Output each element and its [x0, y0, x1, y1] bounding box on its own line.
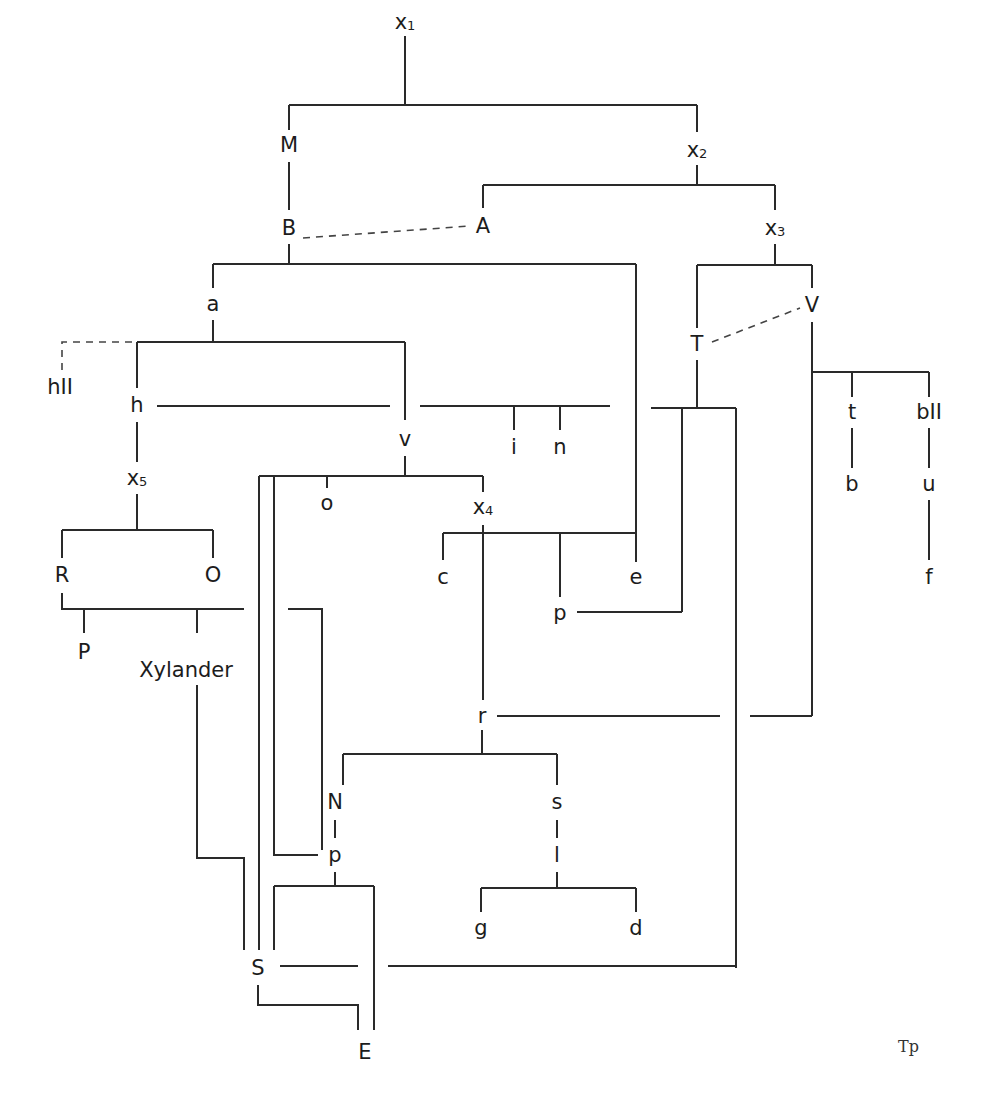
node-s: s: [552, 790, 563, 814]
edge-T-V-contamination: [712, 308, 800, 342]
node-o: o: [321, 491, 334, 515]
node-subscript: 5: [139, 474, 147, 489]
node-c: c: [437, 565, 449, 589]
node-u: u: [922, 472, 935, 496]
node-f: f: [925, 565, 933, 589]
node-x2: x2: [687, 138, 708, 162]
node-subscript: 2: [699, 146, 707, 161]
node-n: n: [553, 435, 566, 459]
signature-mark: Tp: [898, 1037, 919, 1056]
node-A: A: [476, 214, 491, 238]
node-subscript: 4: [485, 503, 493, 518]
node-e: e: [630, 565, 643, 589]
edge-r-children: [343, 730, 557, 785]
edge-V-children: [812, 322, 929, 716]
node-b: b: [845, 472, 858, 496]
node-g: g: [474, 916, 487, 940]
edge-Xylander-S: [197, 685, 244, 950]
node-d: d: [629, 916, 642, 940]
edge-x5-children: [62, 494, 213, 558]
edge-B-A-contamination: [303, 226, 470, 238]
node-x4: x4: [473, 495, 494, 519]
node-t: t: [848, 400, 856, 424]
edge-R-line: [62, 593, 322, 850]
node-E: E: [358, 1040, 371, 1064]
edge-T-children: [651, 360, 736, 968]
node-N: N: [327, 790, 343, 814]
edge-h-line: [157, 406, 610, 430]
node-T: T: [690, 332, 704, 356]
edge-hII-contamination: [62, 342, 132, 370]
node-subscript: 3: [777, 224, 785, 239]
node-i: i: [511, 435, 517, 459]
node-p1: p: [553, 601, 566, 625]
edges: [62, 36, 929, 1030]
node-x5: x5: [127, 466, 148, 490]
edge-v-children: [259, 456, 483, 492]
node-x3: x3: [765, 216, 786, 240]
node-hII: hII: [47, 375, 73, 399]
node-B: B: [282, 216, 296, 240]
node-a: a: [207, 292, 220, 316]
edge-l-children: [481, 872, 636, 912]
node-l: l: [554, 843, 560, 867]
node-R: R: [55, 563, 70, 587]
stemma-diagram: x1Mx2BAx3aVThIIhtbIIvinox4bux5ROcefpPXyl…: [0, 0, 992, 1120]
edge-x1-children: [289, 36, 697, 132]
edge-x2-children: [483, 165, 775, 210]
node-v: v: [399, 427, 411, 451]
node-P: P: [78, 640, 91, 664]
edge-x3-children: [697, 244, 812, 328]
node-M: M: [280, 133, 298, 157]
edge-B-children: [213, 244, 636, 562]
node-bII: bII: [916, 400, 942, 424]
node-p2: p: [328, 843, 341, 867]
edge-S-E: [258, 985, 358, 1030]
node-labels: x1Mx2BAx3aVThIIhtbIIvinox4bux5ROcefpPXyl…: [47, 10, 942, 1064]
node-r: r: [478, 704, 487, 728]
node-V: V: [805, 293, 820, 317]
node-subscript: 1: [407, 18, 415, 33]
edge-v-long-left: [259, 476, 318, 950]
node-O: O: [205, 563, 222, 587]
node-x1: x1: [395, 10, 416, 34]
node-Xylander: Xylander: [139, 658, 233, 682]
node-h: h: [130, 393, 143, 417]
node-S: S: [251, 956, 264, 980]
